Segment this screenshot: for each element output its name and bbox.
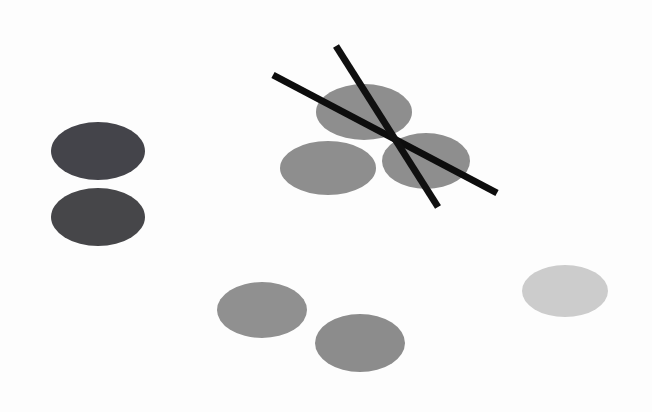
scene-svg — [0, 0, 652, 412]
ellipse-lower-right — [315, 314, 405, 372]
ellipse-dark-upper-left — [51, 122, 145, 180]
ellipse-lower-left — [217, 282, 307, 338]
scene-canvas — [0, 0, 652, 412]
ellipse-right-light — [522, 265, 608, 317]
ellipse-cluster-left — [280, 141, 376, 195]
ellipse-dark-lower-left — [51, 188, 145, 246]
